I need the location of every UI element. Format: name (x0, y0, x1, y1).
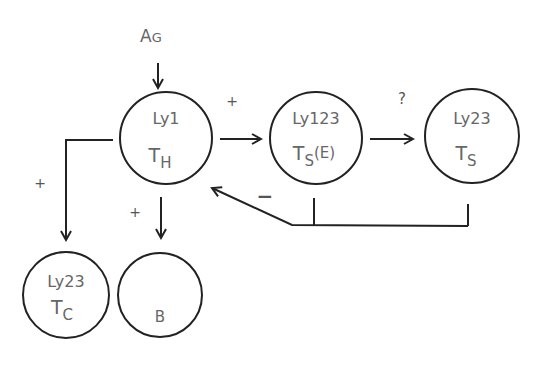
antigen-label: AG (140, 26, 162, 46)
sign-th-to-tse: + (226, 93, 238, 109)
node-tc: Ly23 TC (23, 252, 109, 338)
node-tc-circle (23, 252, 109, 338)
sign-th-to-tc: + (34, 175, 46, 191)
edge-feedback-to-th (212, 188, 468, 226)
immune-regulation-diagram: AG Ly1 TH Ly123 TS(E) Ly23 TS Ly23 TC B … (0, 0, 540, 365)
node-ts: Ly23 TS (425, 89, 519, 183)
node-tc-line2: TC (50, 296, 73, 324)
node-th-line1: Ly1 (152, 109, 179, 128)
node-tse-circle (270, 92, 362, 184)
node-tc-line1: Ly23 (47, 272, 84, 291)
antigen-input: AG (140, 26, 162, 88)
sign-th-to-b: + (129, 204, 141, 220)
node-tse: Ly123 TS(E) (270, 92, 362, 184)
feedback-path (212, 188, 468, 226)
node-th: Ly1 TH (120, 92, 212, 184)
node-th-line2: TH (148, 144, 172, 172)
node-tse-line2: TS(E) (292, 142, 335, 170)
node-b: B (118, 253, 202, 337)
node-ts-line2: TS (454, 142, 476, 170)
node-b-label: B (155, 308, 165, 326)
node-ts-line1: Ly23 (453, 109, 490, 128)
sign-tse-to-ts: ? (398, 90, 406, 108)
sign-feedback: − (257, 184, 274, 208)
node-tse-line1: Ly123 (292, 109, 339, 128)
edge-th-to-tc (66, 140, 113, 240)
